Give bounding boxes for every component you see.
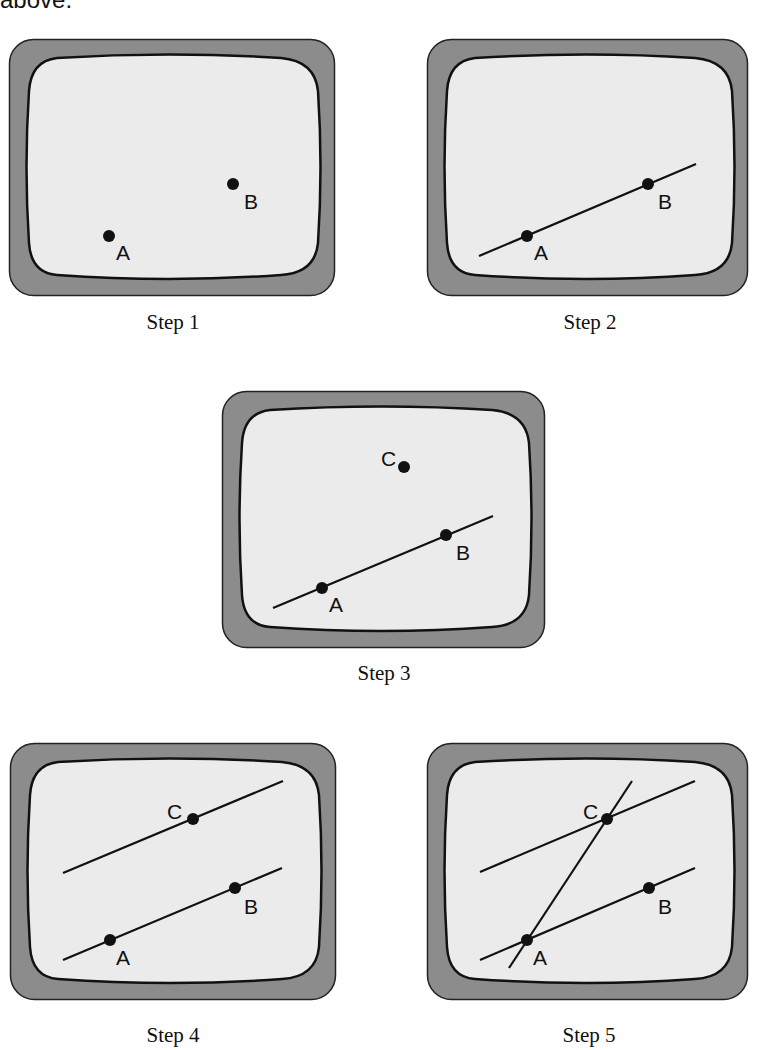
header-text: above. (0, 0, 72, 14)
point-b-label: B (658, 895, 672, 918)
point-b-dot (440, 529, 452, 541)
step-1-caption: Step 1 (73, 310, 273, 335)
tv-screen (27, 55, 321, 280)
tv-screen-figure: A B C (10, 743, 337, 1001)
step-4-panel: A B C (10, 743, 337, 1001)
point-b-label: B (244, 895, 258, 918)
step-5-caption: Step 5 (489, 1023, 689, 1048)
point-a-label: A (116, 946, 130, 969)
point-c-dot (398, 461, 410, 473)
point-a-label: A (116, 241, 130, 264)
step-3-caption: Step 3 (284, 661, 484, 686)
point-b-label: B (456, 541, 470, 564)
tv-screen-figure: A B C (222, 391, 549, 649)
step-5-panel: A B C (427, 743, 754, 1001)
point-a-label: A (533, 946, 547, 969)
point-b-dot (227, 178, 239, 190)
step-3-panel: A B C (222, 391, 549, 649)
tv-screen-figure: A B (427, 39, 754, 297)
tv-screen-figure: A B C (427, 743, 754, 1001)
point-a-dot (316, 582, 328, 594)
step-2-caption: Step 2 (490, 310, 690, 335)
point-a-dot (103, 230, 115, 242)
step-1-panel: A B (9, 39, 336, 297)
point-b-dot (229, 882, 241, 894)
point-a-label: A (329, 593, 343, 616)
step-2-panel: A B (427, 39, 754, 297)
point-c-label: C (583, 800, 598, 823)
point-c-dot (601, 813, 613, 825)
point-b-label: B (658, 190, 672, 213)
step-4-caption: Step 4 (73, 1023, 273, 1048)
point-b-label: B (244, 190, 258, 213)
point-a-label: A (534, 241, 548, 264)
point-b-dot (642, 178, 654, 190)
point-a-dot (521, 934, 533, 946)
point-c-label: C (167, 800, 182, 823)
point-a-dot (104, 934, 116, 946)
point-c-dot (187, 813, 199, 825)
point-a-dot (521, 230, 533, 242)
point-b-dot (643, 882, 655, 894)
point-c-label: C (381, 447, 396, 470)
tv-screen-figure: A B (9, 39, 336, 297)
